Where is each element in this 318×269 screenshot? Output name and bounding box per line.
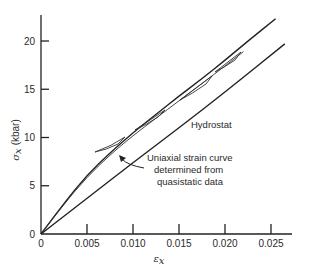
x-tick-label: 0.015 [166, 238, 191, 249]
y-axis-label: σx(kbar) [10, 119, 23, 161]
x-axis-label: εx [153, 253, 164, 266]
curves [41, 19, 285, 234]
stress-strain-chart: 0510152000.0050.0100.0150.0200.025 Hydro… [0, 0, 318, 269]
upper-loading-curve [41, 19, 276, 234]
annotation-line-2: determined from [154, 164, 223, 175]
uniaxial-strain-curve [41, 52, 243, 234]
hydrostat-line [41, 44, 285, 234]
y-tick-label: 20 [24, 36, 36, 47]
x-tick-label: 0.020 [212, 238, 237, 249]
y-tick-label: 5 [29, 180, 35, 191]
svg-text:σx(kbar): σx(kbar) [10, 119, 23, 161]
x-tick-label: 0 [38, 238, 44, 249]
annotation-line-3: quasistatic data [157, 176, 224, 187]
x-tick-label: 0.025 [258, 238, 283, 249]
hydrostat-label: Hydrostat [191, 119, 232, 130]
x-tick-label: 0.005 [74, 238, 99, 249]
axes [41, 15, 292, 234]
y-tick-label: 0 [29, 229, 35, 240]
y-tick-label: 15 [24, 84, 36, 95]
y-tick-label: 10 [24, 132, 36, 143]
svg-text:εx: εx [153, 253, 164, 266]
annotation-line-1: Uniaxial strain curve [147, 152, 233, 163]
x-tick-label: 0.010 [120, 238, 145, 249]
